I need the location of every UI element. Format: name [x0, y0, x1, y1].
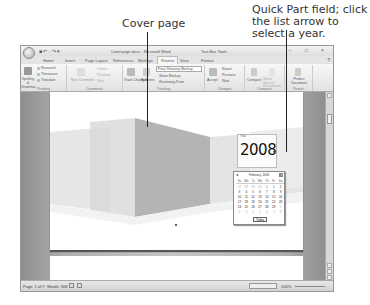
calendar-day[interactable]: 31: [263, 185, 270, 189]
calendar-day[interactable]: 26: [250, 205, 257, 209]
calendar-day[interactable]: 8: [270, 190, 277, 194]
calendar-day[interactable]: 2: [277, 185, 284, 189]
previous-change-button[interactable]: Previous: [222, 73, 236, 77]
display-for-review-dropdown[interactable]: Final Showing Markup: [156, 66, 202, 72]
spelling-icon[interactable]: [24, 67, 32, 75]
callout-quick-part: Quick Part field; click the list arrow t…: [252, 4, 370, 40]
scroll-up-button[interactable]: [327, 93, 332, 98]
calendar-day[interactable]: 5: [250, 190, 257, 194]
scrollbar-thumb[interactable]: [327, 114, 332, 124]
calendar-day[interactable]: 16: [277, 195, 284, 199]
calendar-day[interactable]: 7: [263, 190, 270, 194]
calendar-day[interactable]: 3: [243, 210, 250, 214]
tab-view[interactable]: View: [180, 58, 189, 63]
thesaurus-button[interactable]: Thesaurus: [41, 72, 58, 76]
vertical-scrollbar[interactable]: [325, 92, 333, 282]
calendar-day[interactable]: 30: [257, 185, 264, 189]
page-two[interactable]: [50, 256, 303, 282]
translate-button[interactable]: Translate: [41, 78, 55, 82]
reject-button[interactable]: Reject: [222, 67, 232, 71]
accept-button[interactable]: Accept: [207, 78, 218, 82]
tab-insert[interactable]: Insert: [65, 58, 75, 63]
cover-page[interactable]: Year 2008 ▾ ◂ February, 2008 ▸ Su Mo Tu …: [50, 92, 303, 250]
tab-references[interactable]: References: [113, 58, 133, 63]
calendar-header: ◂ February, 2008 ▸: [234, 173, 284, 178]
calendar-day[interactable]: 28: [243, 185, 250, 189]
calendar-day[interactable]: 13: [257, 195, 264, 199]
calendar-day[interactable]: 20: [257, 200, 264, 204]
calendar-day[interactable]: 25: [243, 205, 250, 209]
next-change-button[interactable]: Next: [222, 79, 229, 83]
calendar-day[interactable]: 28: [263, 205, 270, 209]
view-buttons[interactable]: [249, 283, 277, 289]
tab-format[interactable]: Format: [201, 58, 214, 63]
calendar-day[interactable]: 29: [250, 185, 257, 189]
new-comment-button[interactable]: New Comment: [71, 78, 94, 82]
select-browse-object-button[interactable]: [327, 269, 332, 274]
previous-month-icon[interactable]: ◂: [236, 173, 238, 177]
calendar-day[interactable]: 6: [257, 190, 264, 194]
calendar-day[interactable]: 18: [243, 200, 250, 204]
tab-mailings[interactable]: Mailings: [138, 58, 153, 63]
callout-cover-page: Cover page: [122, 18, 185, 30]
tab-home[interactable]: Home: [43, 58, 54, 63]
help-icon[interactable]: ?: [327, 57, 330, 63]
calendar-day[interactable]: 14: [263, 195, 270, 199]
next-month-icon[interactable]: ▸: [279, 173, 283, 177]
calendar-day[interactable]: 21: [263, 200, 270, 204]
compare-icon: [251, 68, 257, 76]
proofing-status-icon[interactable]: [69, 283, 74, 288]
year-quick-part-field[interactable]: Year 2008 ▾: [237, 134, 277, 168]
calendar-day[interactable]: 12: [250, 195, 257, 199]
calendar-day[interactable]: 7: [270, 210, 277, 214]
compare-button[interactable]: Compare: [247, 78, 261, 82]
office-button[interactable]: [23, 47, 35, 59]
weekday-label: Tu: [250, 179, 257, 184]
protect-document-button[interactable]: Protect Document: [287, 78, 311, 85]
calendar-day[interactable]: 27: [257, 205, 264, 209]
calendar-day[interactable]: 1: [277, 205, 284, 209]
research-button[interactable]: Research: [41, 66, 56, 70]
word-count[interactable]: Words: 308: [47, 284, 67, 289]
macro-record-icon[interactable]: [77, 283, 82, 288]
calendar-day[interactable]: 1: [270, 185, 277, 189]
reviewing-pane-button[interactable]: Reviewing Pane: [159, 80, 184, 84]
calendar-day[interactable]: 11: [243, 195, 250, 199]
quick-access-toolbar[interactable]: ■ ↶ · ↷ ▾: [39, 48, 60, 54]
calendar-day[interactable]: 17: [236, 200, 243, 204]
calendar-day[interactable]: 15: [270, 195, 277, 199]
tab-review[interactable]: Review: [157, 56, 178, 64]
year-dropdown-arrow-icon[interactable]: ▾: [273, 149, 275, 154]
group-label-changes: Changes: [205, 87, 244, 91]
calendar-day[interactable]: 10: [236, 195, 243, 199]
calendar-day[interactable]: 3: [236, 190, 243, 194]
calendar-day[interactable]: 24: [236, 205, 243, 209]
next-comment-button[interactable]: Next: [97, 79, 104, 83]
year-field-value[interactable]: 2008: [240, 141, 276, 159]
calendar-day[interactable]: 5: [257, 210, 264, 214]
calendar-day[interactable]: 22: [270, 200, 277, 204]
calendar-day[interactable]: 6: [263, 210, 270, 214]
calendar-day[interactable]: 4: [243, 190, 250, 194]
page-count[interactable]: Page: 1 of 7: [23, 284, 45, 289]
zoom-level[interactable]: 100%: [281, 284, 291, 289]
calendar-day[interactable]: 23: [277, 200, 284, 204]
calendar-day[interactable]: 2: [236, 210, 243, 214]
calendar-day[interactable]: 8: [277, 210, 284, 214]
zoom-slider[interactable]: [295, 286, 325, 287]
show-markup-button[interactable]: Show Markup: [159, 74, 180, 78]
tab-page-layout[interactable]: Page Layout: [85, 58, 107, 63]
calendar-day[interactable]: 9: [277, 190, 284, 194]
date-picker-calendar: ◂ February, 2008 ▸ Su Mo Tu We Th Fr Sa …: [233, 171, 285, 225]
delete-comment-button[interactable]: Delete: [97, 67, 107, 71]
calendar-day[interactable]: 27: [236, 185, 243, 189]
calendar-day[interactable]: 4: [250, 210, 257, 214]
previous-page-button[interactable]: [327, 263, 332, 268]
calendar-day[interactable]: 29: [270, 205, 277, 209]
shape-handle[interactable]: [175, 224, 177, 226]
window-controls[interactable]: – □ ×: [289, 47, 331, 53]
previous-comment-button[interactable]: Previous: [97, 73, 111, 77]
group-label-tracking: Tracking: [123, 87, 204, 91]
today-button[interactable]: Today: [253, 217, 267, 222]
calendar-day[interactable]: 19: [250, 200, 257, 204]
